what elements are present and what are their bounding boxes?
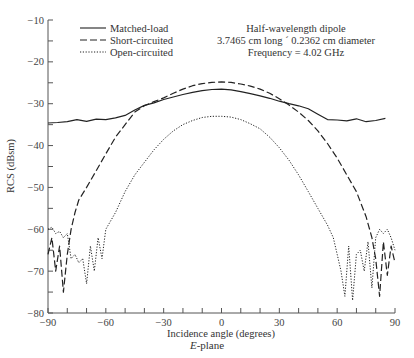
x-tick-label: −60 <box>98 317 114 328</box>
y-tick-label: −20 <box>28 56 44 67</box>
y-tick-label: −60 <box>28 224 44 235</box>
data-series <box>48 82 395 301</box>
y-tick-label: −40 <box>28 140 44 151</box>
chart-annotation: Half-wavelength dipole 3.7465 cm long ´ … <box>217 23 376 58</box>
legend: Matched-loadShort-circuitedOpen-circuite… <box>80 23 174 58</box>
x-tick-label: 60 <box>332 317 343 328</box>
x-tick-label: −90 <box>40 317 56 328</box>
series-open-circuited <box>48 116 395 300</box>
y-axis-title: RCS (dBsm) <box>5 139 17 193</box>
y-tick-label: −50 <box>28 182 44 193</box>
x-tick-label: 90 <box>390 317 401 328</box>
plane-caption-rest: -plane <box>197 339 224 351</box>
series-short-circuited <box>48 82 395 296</box>
annotation-line-3: Frequency = 4.02 GHz <box>248 47 345 58</box>
legend-label: Short-circuited <box>110 35 174 46</box>
annotation-line-2: 3.7465 cm long ´ 0.2362 cm diameter <box>217 35 376 46</box>
y-tick-label: −30 <box>28 98 44 109</box>
annotation-line-1: Half-wavelength dipole <box>246 23 346 34</box>
rcs-chart: −10−20−30−40−50−60−70−80−90−60−300306090… <box>0 0 414 358</box>
legend-label: Matched-load <box>110 23 169 34</box>
y-tick-label: −70 <box>28 266 44 277</box>
y-tick-label: −10 <box>28 15 44 26</box>
x-tick-label: −30 <box>155 317 171 328</box>
x-tick-label: 0 <box>219 317 224 328</box>
series-matched-load <box>48 89 385 123</box>
legend-label: Open-circuited <box>110 47 174 58</box>
x-tick-label: 30 <box>274 317 285 328</box>
plane-caption-italic: E <box>190 339 197 351</box>
plane-caption: E-plane <box>0 339 414 351</box>
